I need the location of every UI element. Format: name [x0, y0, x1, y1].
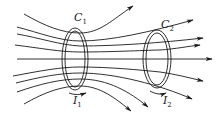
field-lines — [13, 6, 212, 111]
magnetic-field-diagram: C1 C2 I1 I2 — [0, 0, 220, 120]
label-i2: I2 — [162, 94, 172, 109]
current-arrow-i1 — [69, 93, 86, 95]
label-c2: C2 — [161, 18, 174, 33]
field-line — [17, 79, 148, 107]
label-c1: C1 — [74, 11, 87, 26]
field-line — [160, 45, 200, 50]
label-i1: I1 — [72, 94, 82, 109]
field-line — [17, 34, 203, 46]
